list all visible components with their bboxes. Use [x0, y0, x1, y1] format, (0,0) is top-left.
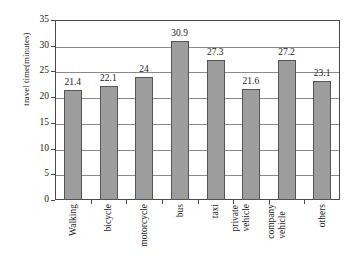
x-axis-category-line: bus [174, 204, 185, 217]
x-axis-category-text: Walking [68, 204, 79, 236]
x-axis-category-line: private [230, 204, 241, 231]
x-axis-category-text: others [317, 204, 328, 227]
x-axis-category-label: others [304, 204, 340, 266]
bar-slot [126, 20, 162, 200]
bar-value-label: 21.4 [55, 77, 91, 87]
bar[interactable] [313, 81, 331, 200]
bar-value-label: 23.1 [304, 68, 340, 78]
x-axis-category-line: taxi [210, 204, 221, 218]
x-axis-category-text: taxi [210, 204, 221, 218]
y-axis-tick-label: 10 [29, 144, 49, 153]
x-axis-category-line: motorcycle [139, 204, 150, 247]
x-axis-category-line: vehicle [240, 204, 251, 231]
bar-slot [304, 20, 340, 200]
bar-value-label: 22.1 [91, 73, 127, 83]
bar-value-label: 27.3 [198, 47, 234, 57]
x-axis-category-label: taxi [198, 204, 234, 266]
x-axis-category-label: companyvehicle [269, 204, 305, 266]
y-axis-tick-label: 0 [29, 195, 49, 204]
x-axis-category-line: others [317, 204, 328, 227]
bar-value-label: 21.6 [233, 76, 269, 86]
bar-slot [91, 20, 127, 200]
x-axis-category-text: bicycle [103, 204, 114, 231]
bar-value-label: 27.2 [269, 47, 305, 57]
x-axis-category-text: motorcycle [139, 204, 150, 247]
y-axis-tick-label: 5 [29, 169, 49, 178]
x-axis-category-line: company [266, 204, 277, 239]
bar[interactable] [64, 90, 82, 200]
bar-slot [55, 20, 91, 200]
bar[interactable] [135, 77, 153, 200]
y-axis-tick-label: 35 [29, 15, 49, 24]
x-axis-category-text: bus [174, 204, 185, 217]
bar[interactable] [171, 41, 189, 200]
x-axis-category-line: Walking [68, 204, 79, 236]
y-axis-tick-mark [51, 200, 55, 201]
y-axis-tick-label: 15 [29, 118, 49, 127]
x-axis-category-label: bicycle [91, 204, 127, 266]
x-axis-category-line: bicycle [103, 204, 114, 231]
y-axis-tick-label: 30 [29, 41, 49, 50]
y-axis-tick-label: 20 [29, 92, 49, 101]
bar-chart: travel time(minutes) 35302520151050 21.4… [0, 0, 355, 270]
bar-value-label: 24 [126, 64, 162, 74]
x-axis-category-label: bus [162, 204, 198, 266]
x-axis-category-label: Walking [55, 204, 91, 266]
x-axis-category-line: vehicle [276, 204, 287, 239]
x-axis-category-label: privatevehicle [233, 204, 269, 266]
x-axis-category-label: motorcycle [126, 204, 162, 266]
y-axis-tick-label: 25 [29, 66, 49, 75]
bar[interactable] [100, 86, 118, 200]
bar-slot [233, 20, 269, 200]
bar[interactable] [207, 60, 225, 200]
bar-value-label: 30.9 [162, 28, 198, 38]
x-axis-category-text: privatevehicle [230, 204, 251, 231]
bar[interactable] [278, 60, 296, 200]
bar-slot [162, 20, 198, 200]
x-axis-category-text: companyvehicle [266, 204, 287, 239]
bar[interactable] [242, 89, 260, 200]
